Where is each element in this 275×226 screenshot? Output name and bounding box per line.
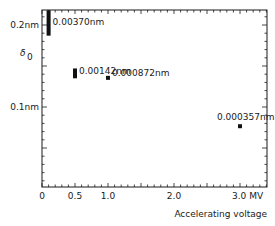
plot-border [42,10,267,187]
data-point-label: 0.000357nm [217,112,274,122]
data-labels: 0.00370nm0.00142nm0.000872nm0.000357nm [53,17,275,122]
x-tick-label: 0 [39,191,45,201]
y-tick-label: 0.1nm [10,102,39,112]
y-axis-label: δ [20,48,26,58]
data-point-label: 0.00370nm [53,17,105,27]
data-bar [73,68,77,78]
data-bar [47,10,51,35]
data-bar [238,124,242,128]
y-axis-label-subscript: 0 [27,52,33,62]
x-tick-label: 1.0 [101,191,116,201]
y-tick-label: 0.2nm [10,20,39,30]
chart: 0.00370nm0.00142nm0.000872nm0.000357nm 0… [0,0,275,226]
axis-ticks [42,10,267,187]
plot-frame [42,10,267,187]
x-axis-label: Accelerating voltage [174,209,267,219]
x-tick-label: 0.5 [68,191,82,201]
x-tick-label: 2.0 [167,191,182,201]
data-point-label: 0.000872nm [112,68,169,78]
x-tick-label: 3.0 MV [232,191,264,201]
